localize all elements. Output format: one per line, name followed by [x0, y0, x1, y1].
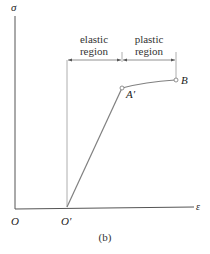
- arrow-left-icon: [123, 59, 127, 62]
- arrow-right-icon: [171, 59, 175, 62]
- elastic-region-label-line1: elastic: [80, 33, 108, 45]
- plastic-curve: [122, 80, 175, 88]
- plastic-region-label-line2: region: [135, 45, 164, 57]
- figure-caption: (b): [99, 231, 112, 244]
- elastic-curve: [67, 88, 122, 207]
- point-b-marker: [174, 78, 178, 82]
- origin-label: O: [11, 215, 19, 227]
- plastic-region-label-line1: plastic: [135, 33, 164, 45]
- x-axis: [15, 207, 194, 209]
- point-a-prime-label: A′: [125, 88, 136, 100]
- arrow-right-icon: [117, 59, 121, 62]
- arrow-left-icon: [68, 59, 72, 62]
- y-axis-label: σ: [11, 1, 17, 13]
- x-axis-label: ε: [196, 201, 200, 212]
- stress-strain-diagram: σ ε O O′ A′ B elastic region plastic reg…: [0, 0, 210, 254]
- point-o-prime-label: O′: [61, 215, 72, 227]
- point-b-label: B: [181, 74, 188, 86]
- elastic-region-label-line2: region: [80, 45, 109, 57]
- point-a-prime-marker: [120, 86, 124, 90]
